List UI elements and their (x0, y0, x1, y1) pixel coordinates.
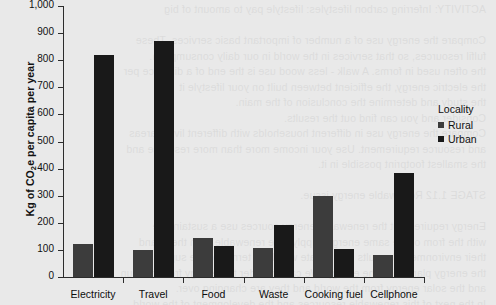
y-axis-tick-label: 500 (37, 135, 54, 146)
y-axis-title-pre: Kg of CO (24, 170, 36, 216)
y-axis-tick-label: 900 (37, 26, 54, 37)
bar (313, 196, 333, 277)
bar (73, 244, 93, 277)
y-axis-tick: 700 (58, 87, 63, 88)
x-axis-tick (304, 277, 305, 283)
x-axis-category-label: Electricity (71, 288, 116, 300)
bar (133, 250, 153, 277)
bar (214, 246, 234, 277)
x-axis-category-label: Cooking fuel (305, 288, 363, 300)
y-axis-tick-label: 1,000 (29, 0, 54, 10)
x-axis-category-label: Travel (139, 288, 168, 300)
y-axis-title: Kg of CO2e per capita per year (24, 24, 38, 254)
bar (193, 238, 213, 277)
legend-entry-rural: Rural (438, 119, 477, 131)
y-axis-tick: 200 (58, 223, 63, 224)
y-axis-tick: 500 (58, 142, 63, 143)
y-axis-tick: 0 (58, 277, 63, 278)
x-axis-tick (123, 277, 124, 283)
y-axis-tick-label: 800 (37, 53, 54, 64)
x-axis-category-label: Waste (259, 288, 288, 300)
y-axis-tick-label: 600 (37, 107, 54, 118)
y-axis-tick: 800 (58, 60, 63, 61)
legend-entry-label: Urban (448, 133, 477, 145)
y-axis-tick-label: 400 (37, 162, 54, 173)
y-axis-tick: 900 (58, 33, 63, 34)
bar (253, 248, 273, 277)
y-axis-title-post: e per capita per year (24, 62, 36, 166)
bar (334, 249, 354, 277)
plot-area: 01002003004005006007008009001,000 Electr… (63, 6, 424, 277)
y-axis-tick-label: 0 (48, 270, 54, 281)
y-axis-tick: 600 (58, 114, 63, 115)
legend-entry-label: Rural (448, 119, 473, 131)
legend-entries: RuralUrban (438, 119, 477, 145)
bar (394, 173, 414, 277)
x-axis-category-label: Cellphone (370, 288, 417, 300)
legend-title: Locality (438, 103, 477, 115)
x-axis-tick (364, 277, 365, 283)
legend-swatch-icon (438, 136, 444, 142)
y-axis-tick-label: 100 (37, 243, 54, 254)
x-axis-tick (424, 277, 425, 283)
bar-chart: Kg of CO2e per capita per year 010020030… (0, 0, 496, 305)
y-axis-tick-label: 300 (37, 189, 54, 200)
y-axis-line (63, 6, 64, 278)
bar (274, 225, 294, 277)
y-axis-tick-label: 700 (37, 80, 54, 91)
y-axis-tick: 100 (58, 250, 63, 251)
legend: Locality RuralUrban (438, 103, 477, 145)
bar (94, 55, 114, 277)
bar (154, 41, 174, 277)
y-axis-tick-label: 200 (37, 216, 54, 227)
x-axis-category-label: Food (201, 288, 225, 300)
y-axis-tick: 400 (58, 169, 63, 170)
y-axis-tick: 1,000 (58, 6, 63, 7)
y-axis-tick: 300 (58, 196, 63, 197)
legend-entry-urban: Urban (438, 133, 477, 145)
legend-swatch-icon (438, 122, 444, 128)
x-axis-tick (244, 277, 245, 283)
bar (373, 255, 393, 277)
x-axis-tick (183, 277, 184, 283)
